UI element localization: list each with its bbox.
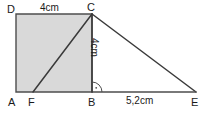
right-angle-dot-icon — [95, 87, 97, 89]
dimension-label-vertical-side: 4cm — [89, 38, 99, 57]
vertex-label-c: C — [87, 2, 95, 13]
vertex-label-e: E — [191, 97, 198, 108]
segment-ce — [92, 14, 196, 92]
vertex-label-a: A — [8, 97, 15, 108]
shaded-square-region — [16, 14, 92, 92]
geometry-figure: D C A F B E 4cm 4cm 5,2cm — [0, 0, 210, 118]
dimension-label-top-side: 4cm — [40, 3, 59, 13]
vertex-label-d: D — [7, 4, 15, 15]
dimension-label-base-segment: 5,2cm — [126, 96, 153, 106]
vertex-label-b: B — [88, 97, 95, 108]
vertex-label-f: F — [28, 97, 35, 108]
right-angle-arc-icon — [92, 82, 102, 92]
